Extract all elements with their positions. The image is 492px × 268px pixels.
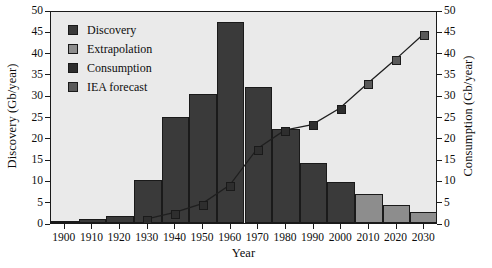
y-tick-label-right-20: 20	[444, 133, 467, 145]
legend-item-iea-forecast: IEA forecast	[68, 78, 152, 95]
y-tick-label-left-25: 25	[20, 112, 43, 124]
y-tick-right-45	[437, 32, 442, 33]
bar-discovery-2000	[327, 182, 355, 223]
y-tick-label-left-0: 0	[20, 218, 43, 230]
x-tick-2010	[368, 224, 369, 229]
y-tick-label-right-15: 15	[444, 154, 467, 166]
y-tick-label-right-10: 10	[444, 175, 467, 187]
bar-discovery-1920	[106, 216, 134, 223]
legend-label: IEA forecast	[87, 81, 147, 93]
legend-item-discovery: Discovery	[68, 21, 152, 38]
bar-discovery-1910	[79, 219, 107, 223]
bar-extrapolation-2010	[355, 194, 383, 223]
marker-iea-forecast-2020	[392, 56, 401, 65]
legend-item-extrapolation: Extrapolation	[68, 40, 152, 57]
marker-consumption-1980	[281, 127, 290, 136]
y-tick-label-right-40: 40	[444, 48, 467, 60]
y-axis-left-title: Discovery (Gb/year)	[4, 4, 20, 228]
x-tick-1930	[147, 224, 148, 229]
y-tick-right-25	[437, 117, 442, 118]
y-tick-label-right-5: 5	[444, 197, 467, 209]
legend-swatch-icon-3	[68, 82, 78, 92]
x-tick-1900	[64, 224, 65, 229]
y-tick-right-5	[437, 202, 442, 203]
x-tick-1910	[91, 224, 92, 229]
y-tick-right-30	[437, 96, 442, 97]
x-tick-1990	[313, 224, 314, 229]
x-tick-1920	[119, 224, 120, 229]
x-tick-1950	[202, 224, 203, 229]
x-tick-2020	[396, 224, 397, 229]
y-tick-right-0	[437, 224, 442, 225]
y-tick-right-40	[437, 53, 442, 54]
y-tick-label-right-45: 45	[444, 26, 467, 38]
marker-consumption-1990	[309, 121, 318, 130]
legend-swatch-icon-2	[68, 63, 78, 73]
bar-extrapolation-2020	[383, 205, 411, 223]
y-tick-label-right-50: 50	[444, 5, 467, 17]
x-tick-2030	[423, 224, 424, 229]
y-tick-label-left-35: 35	[20, 69, 43, 81]
bar-discovery-1980	[272, 129, 300, 223]
y-tick-label-left-10: 10	[20, 175, 43, 187]
x-tick-1940	[174, 224, 175, 229]
bar-extrapolation-2030	[410, 212, 437, 224]
y-tick-label-right-25: 25	[444, 112, 467, 124]
marker-consumption-2000	[337, 105, 346, 114]
y-tick-label-left-20: 20	[20, 133, 43, 145]
y-tick-right-10	[437, 181, 442, 182]
marker-consumption-1960	[226, 182, 235, 191]
legend-swatch-icon-1	[68, 44, 78, 54]
bar-discovery-1940	[162, 117, 190, 224]
bar-discovery-1990	[300, 163, 328, 223]
marker-iea-forecast-2030	[420, 31, 429, 40]
y-tick-label-left-50: 50	[20, 5, 43, 17]
y-tick-right-35	[437, 74, 442, 75]
x-tick-2000	[340, 224, 341, 229]
marker-consumption-1950	[199, 201, 208, 210]
plot-area: DiscoveryExtrapolationConsumptionIEA for…	[50, 11, 437, 224]
y-tick-right-20	[437, 138, 442, 139]
y-tick-label-left-30: 30	[20, 90, 43, 102]
legend-label: Discovery	[87, 24, 136, 36]
y-tick-label-left-5: 5	[20, 197, 43, 209]
x-axis-title: Year	[50, 246, 437, 261]
x-tick-label-2030: 2030	[406, 231, 440, 243]
chart-figure: Discovery (Gb/year) Consumption (Gb/year…	[0, 0, 492, 268]
x-tick-1980	[285, 224, 286, 229]
legend-swatch-icon-0	[68, 25, 78, 35]
legend-label: Extrapolation	[87, 43, 152, 55]
x-tick-1960	[230, 224, 231, 229]
y-tick-label-right-0: 0	[444, 218, 467, 230]
y-tick-label-right-30: 30	[444, 90, 467, 102]
bar-discovery-1970	[245, 87, 273, 223]
chart-legend: DiscoveryExtrapolationConsumptionIEA for…	[68, 21, 152, 97]
y-tick-label-left-40: 40	[20, 48, 43, 60]
y-tick-right-15	[437, 160, 442, 161]
y-tick-label-left-15: 15	[20, 154, 43, 166]
marker-consumption-1940	[171, 210, 180, 219]
x-tick-1970	[257, 224, 258, 229]
legend-label: Consumption	[87, 62, 152, 74]
y-tick-label-left-45: 45	[20, 26, 43, 38]
y-tick-label-right-35: 35	[444, 69, 467, 81]
bar-discovery-1900	[51, 221, 79, 223]
legend-item-consumption: Consumption	[68, 59, 152, 76]
y-tick-right-50	[437, 11, 442, 12]
marker-iea-forecast-2010	[364, 80, 373, 89]
marker-consumption-1970	[254, 146, 263, 155]
marker-consumption-1930	[143, 216, 152, 224]
bar-discovery-1960	[217, 22, 245, 223]
